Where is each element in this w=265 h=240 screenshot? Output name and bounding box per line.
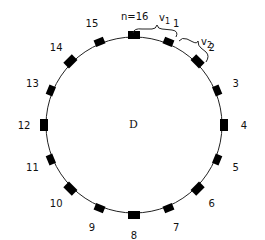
ring-node-2	[191, 54, 205, 68]
node-label-1: 1	[173, 18, 179, 29]
ring-node-10	[63, 182, 77, 196]
node-label-5: 5	[232, 162, 238, 173]
diagram-canvas: 123456789101112131415 D n=16 v1 v2	[0, 0, 265, 240]
center-label: D	[129, 118, 138, 131]
node-label-8: 8	[131, 230, 137, 240]
node-label-4: 4	[241, 120, 247, 131]
node-label-15: 15	[86, 18, 99, 29]
ring-node-14	[63, 54, 77, 68]
node-label-7: 7	[173, 222, 179, 233]
node-label-11: 11	[26, 162, 39, 173]
node-label-6: 6	[209, 198, 215, 209]
node-label-10: 10	[50, 198, 63, 209]
ring-node-4	[220, 119, 228, 131]
ring-node-8	[128, 211, 140, 219]
node-label-12: 12	[18, 120, 31, 131]
brace-label-v2: v2	[201, 36, 212, 50]
n-label: n=16	[121, 11, 148, 22]
ring-node-12	[40, 119, 48, 131]
node-label-3: 3	[232, 78, 238, 89]
node-label-14: 14	[50, 42, 63, 53]
node-label-9: 9	[89, 222, 95, 233]
ring-diagram: 123456789101112131415 D n=16 v1 v2	[0, 0, 265, 240]
ring-node-6	[191, 182, 205, 196]
node-label-13: 13	[26, 78, 39, 89]
ring-node-16	[128, 31, 140, 39]
brace-label-v1: v1	[159, 12, 170, 26]
